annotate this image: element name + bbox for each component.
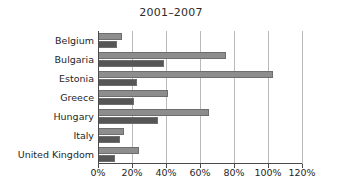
y-label-italy: Italy	[73, 126, 94, 145]
bar-group	[98, 88, 302, 107]
x-label-40%: 40%	[155, 167, 176, 178]
x-label-20%: 20%	[121, 167, 142, 178]
bar-belgium-series-a	[98, 33, 122, 40]
y-label-estonia: Estonia	[59, 69, 94, 88]
bar-group	[98, 50, 302, 69]
bar-chart: 2001–2007 BelgiumBulgariaEstoniaGreeceHu…	[0, 0, 342, 196]
gridline-120%	[302, 31, 303, 164]
bar-group	[98, 107, 302, 126]
bar-greece-series-a	[98, 90, 168, 97]
chart-title: 2001–2007	[0, 6, 342, 19]
bar-groups	[98, 31, 302, 164]
x-label-60%: 60%	[189, 167, 210, 178]
x-label-0%: 0%	[90, 167, 105, 178]
y-label-belgium: Belgium	[55, 31, 94, 50]
bar-united-kingdom-series-a	[98, 147, 139, 154]
bar-estonia-series-b	[98, 79, 137, 86]
bar-group	[98, 126, 302, 145]
x-label-80%: 80%	[223, 167, 244, 178]
x-label-120%: 120%	[288, 167, 315, 178]
y-label-united-kingdom: United Kingdom	[18, 145, 94, 164]
bar-group	[98, 145, 302, 164]
y-axis-category-labels: BelgiumBulgariaEstoniaGreeceHungaryItaly…	[0, 31, 94, 164]
x-axis-tick-labels: 0%20%40%60%80%100%120%	[98, 167, 302, 181]
x-label-100%: 100%	[254, 167, 281, 178]
bar-estonia-series-a	[98, 71, 273, 78]
bar-hungary-series-a	[98, 109, 209, 116]
bar-bulgaria-series-a	[98, 52, 226, 59]
bar-italy-series-b	[98, 136, 120, 143]
bar-bulgaria-series-b	[98, 60, 164, 67]
y-axis-line	[98, 31, 99, 164]
y-label-hungary: Hungary	[53, 107, 94, 126]
bar-united-kingdom-series-b	[98, 155, 115, 162]
bar-italy-series-a	[98, 128, 124, 135]
y-label-greece: Greece	[60, 88, 94, 107]
bar-group	[98, 69, 302, 88]
y-label-bulgaria: Bulgaria	[55, 50, 94, 69]
plot-area	[98, 31, 302, 164]
bar-group	[98, 31, 302, 50]
bar-belgium-series-b	[98, 41, 117, 48]
bar-hungary-series-b	[98, 117, 158, 124]
bar-greece-series-b	[98, 98, 134, 105]
